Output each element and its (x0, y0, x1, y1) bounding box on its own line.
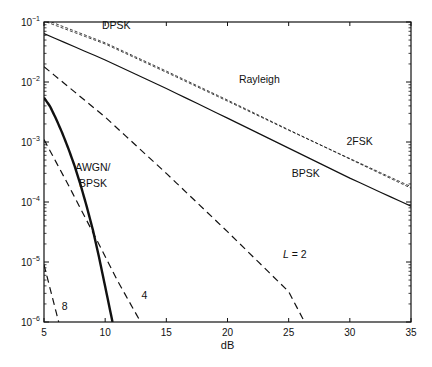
y-tick-label: 10−4 (21, 195, 40, 208)
curve-label: 8 (62, 300, 68, 312)
x-tick-label: 30 (344, 327, 356, 338)
annotations-layer: DPSKRayleigh2FSKBPSKAWGN/BPSKL = 248 (62, 19, 373, 311)
curve-label: 2FSK (346, 135, 372, 147)
curve-label: BPSK (292, 167, 320, 179)
ber-chart: 510152025303510−110−210−310−410−510−6 DP… (0, 0, 432, 367)
x-tick-label: 15 (161, 327, 173, 338)
x-tick-label: 5 (41, 327, 47, 338)
x-tick-label: 25 (283, 327, 295, 338)
x-tick-label: 20 (222, 327, 234, 338)
curve-label: 4 (141, 289, 147, 301)
curve-label: Rayleigh (239, 73, 280, 85)
curve-label: L = 2 (283, 248, 307, 260)
curve-label: AWGN/ (75, 161, 110, 173)
y-tick-label: 10−5 (21, 255, 40, 268)
x-axis-title: dB (221, 339, 234, 351)
x-tick-label: 35 (405, 327, 417, 338)
y-tick-label: 10−1 (21, 15, 40, 28)
series-awgn-bpsk (44, 98, 113, 322)
curve-label: BPSK (79, 177, 107, 189)
x-tick-label: 10 (100, 327, 112, 338)
y-tick-label: 10−6 (21, 315, 40, 328)
curve-label: DPSK (102, 19, 131, 31)
y-tick-label: 10−2 (21, 75, 40, 88)
y-tick-label: 10−3 (21, 135, 40, 148)
